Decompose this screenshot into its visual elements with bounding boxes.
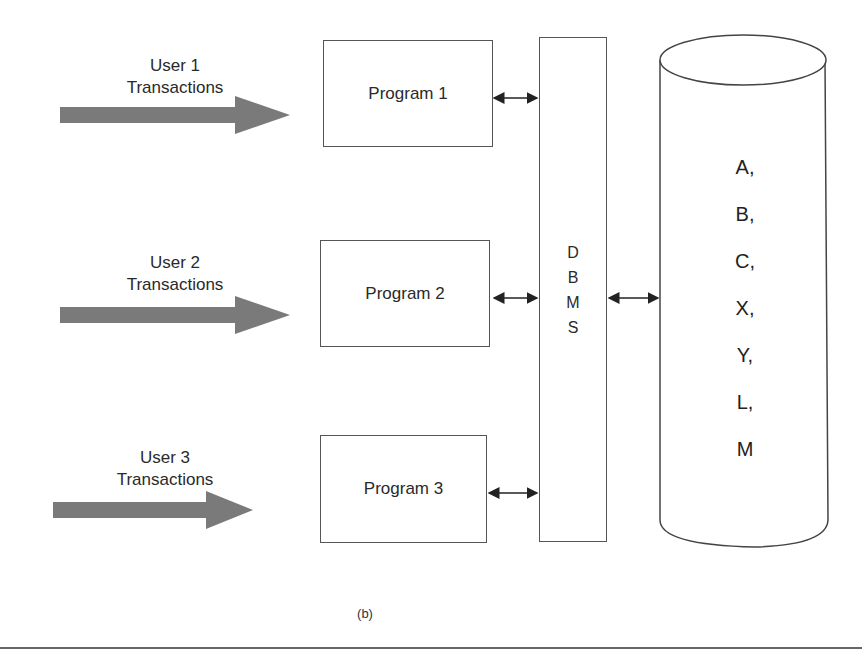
db-item-l: L, — [737, 379, 754, 426]
user-1-label: User 1 Transactions — [95, 55, 255, 99]
dbms-letter-b: B — [568, 265, 579, 290]
program-2-label: Program 2 — [365, 284, 444, 304]
user-3-name: User 3 — [85, 447, 245, 469]
database-items: A, B, C, X, Y, L, M — [705, 144, 785, 473]
user-2-label: User 2 Transactions — [95, 252, 255, 296]
dbms-label: D B M S — [566, 240, 579, 340]
program-3-box: Program 3 — [320, 435, 487, 543]
bottom-rule — [0, 647, 862, 649]
user-1-transactions: Transactions — [95, 77, 255, 99]
transaction-arrow-3 — [53, 491, 253, 529]
dbms-letter-m: M — [566, 290, 579, 315]
db-item-a: A, — [736, 144, 755, 191]
program-1-box: Program 1 — [323, 40, 493, 147]
dbms-letter-s: S — [568, 315, 579, 340]
transaction-arrow-2 — [60, 296, 290, 334]
user-2-name: User 2 — [95, 252, 255, 274]
program-3-label: Program 3 — [364, 479, 443, 499]
program-1-label: Program 1 — [368, 84, 447, 104]
user-3-label: User 3 Transactions — [85, 447, 245, 491]
user-2-transactions: Transactions — [95, 274, 255, 296]
db-item-y: Y, — [737, 332, 753, 379]
transaction-arrow-1 — [60, 96, 290, 134]
dbms-box: D B M S — [539, 37, 607, 542]
user-1-name: User 1 — [95, 55, 255, 77]
db-item-c: C, — [735, 238, 755, 285]
db-item-x: X, — [736, 285, 755, 332]
user-3-transactions: Transactions — [85, 469, 245, 491]
db-item-m: M — [737, 426, 754, 473]
dbms-letter-d: D — [567, 240, 579, 265]
program-2-box: Program 2 — [320, 240, 490, 347]
db-item-b: B, — [736, 191, 755, 238]
figure-caption: (b) — [340, 606, 390, 621]
